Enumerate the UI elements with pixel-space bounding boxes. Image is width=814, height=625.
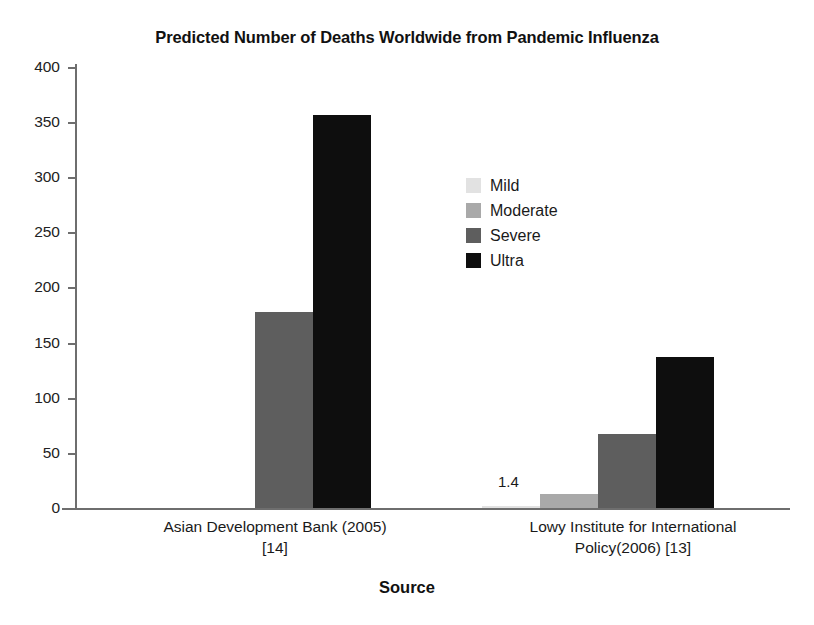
legend-label-severe: Severe xyxy=(490,227,541,245)
legend-item-moderate[interactable]: Moderate xyxy=(466,198,558,223)
legend-swatch-severe-icon xyxy=(466,228,481,243)
x-category-label-line1: Asian Development Bank (2005) xyxy=(110,516,440,537)
y-tick-label-100: 100 xyxy=(4,389,60,407)
bar-severe-asian-development-bank[interactable] xyxy=(255,312,313,508)
legend-swatch-mild-icon xyxy=(466,178,481,193)
legend-label-moderate: Moderate xyxy=(490,202,558,220)
y-tick-label-400: 400 xyxy=(4,58,60,76)
x-category-label-line2: [14] xyxy=(110,537,440,558)
x-axis-line xyxy=(62,508,790,510)
annotation-mild-value: 1.4 xyxy=(498,473,519,490)
x-category-label-asian-development-bank: Asian Development Bank (2005) [14] xyxy=(110,516,440,558)
x-category-label-line2: Policy(2006) [13] xyxy=(468,537,798,558)
legend-item-severe[interactable]: Severe xyxy=(466,223,558,248)
y-tick-label-250: 250 xyxy=(4,223,60,241)
y-tick-label-300: 300 xyxy=(4,168,60,186)
y-tick-label-0: 0 xyxy=(4,499,60,517)
y-tick-label-350: 350 xyxy=(4,113,60,131)
chart-title: Predicted Number of Deaths Worldwide fro… xyxy=(0,28,814,47)
x-axis-title: Source xyxy=(0,578,814,597)
legend-label-mild: Mild xyxy=(490,177,519,195)
bar-severe-lowy-institute[interactable] xyxy=(598,434,656,508)
legend-label-ultra: Ultra xyxy=(490,252,524,270)
bar-mild-lowy-institute[interactable] xyxy=(482,506,540,508)
bar-moderate-lowy-institute[interactable] xyxy=(540,494,598,508)
x-category-label-line1: Lowy Institute for International xyxy=(468,516,798,537)
y-tick-label-200: 200 xyxy=(4,278,60,296)
x-category-label-lowy-institute: Lowy Institute for International Policy(… xyxy=(468,516,798,558)
y-tick-label-150: 150 xyxy=(4,334,60,352)
chart-legend: Mild Moderate Severe Ultra xyxy=(466,173,558,273)
plot-area: 1.4 xyxy=(75,67,790,508)
legend-item-ultra[interactable]: Ultra xyxy=(466,248,558,273)
legend-item-mild[interactable]: Mild xyxy=(466,173,558,198)
legend-swatch-moderate-icon xyxy=(466,203,481,218)
y-tick-label-50: 50 xyxy=(4,444,60,462)
legend-swatch-ultra-icon xyxy=(466,253,481,268)
chart-figure: Predicted Number of Deaths Worldwide fro… xyxy=(0,0,814,625)
bar-ultra-lowy-institute[interactable] xyxy=(656,357,714,508)
bar-ultra-asian-development-bank[interactable] xyxy=(313,115,371,508)
